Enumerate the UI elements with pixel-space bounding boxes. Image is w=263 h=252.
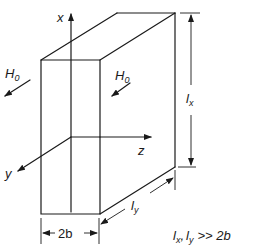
axes: x y z [4, 10, 151, 212]
h0-label-left: H0 [5, 66, 19, 83]
2b-label: 2b [58, 226, 72, 241]
diagram-canvas: x y z H0 H0 lx 2b ly lx,ly>> 2b [0, 0, 263, 252]
field-arrow-left: H0 [5, 66, 30, 96]
y-axis [18, 137, 71, 171]
ly-label: ly [131, 198, 139, 215]
x-axis-label: x [56, 10, 64, 25]
top-right-edge [100, 13, 175, 60]
dimension-2b: 2b [41, 218, 99, 244]
slab-diagram: x y z H0 H0 lx 2b ly lx,ly>> 2b [0, 0, 263, 252]
top-left-edge [41, 13, 117, 60]
dimension-ly: ly [101, 170, 175, 224]
y-axis-label: y [4, 166, 13, 181]
lx-label: lx [186, 91, 194, 108]
condition-text: lx,ly>> 2b [173, 228, 231, 245]
slab-box [41, 13, 175, 214]
dimension-lx: lx [178, 13, 200, 167]
field-arrow-right: H0 [112, 68, 130, 96]
z-axis-label: z [137, 143, 145, 158]
h0-label-right: H0 [115, 68, 129, 85]
